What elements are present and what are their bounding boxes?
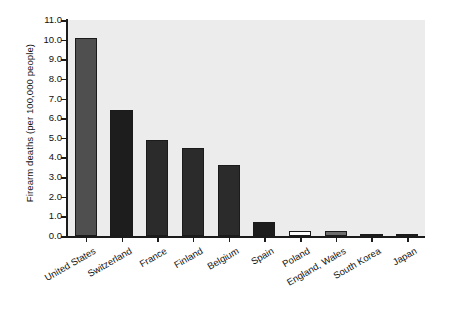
- bar: [110, 110, 132, 236]
- y-tick-mark: [61, 157, 66, 159]
- bar: [253, 222, 275, 236]
- y-tick-mark: [61, 79, 66, 81]
- y-tick-mark: [61, 40, 66, 42]
- bar: [75, 38, 97, 236]
- x-tick-mark: [264, 238, 266, 242]
- x-tick-mark: [336, 238, 338, 242]
- x-tick-mark: [407, 238, 409, 242]
- y-axis-spine: [66, 19, 68, 238]
- bar: [289, 231, 311, 236]
- bar: [325, 231, 347, 236]
- bar: [218, 165, 240, 236]
- x-tick-mark: [193, 238, 195, 242]
- bar: [396, 234, 418, 237]
- y-axis-tick-labels: 0.01.02.03.04.05.06.07.08.09.010.011.0: [26, 20, 62, 236]
- x-tick-mark: [122, 238, 124, 242]
- y-tick-mark: [61, 99, 66, 101]
- y-tick-mark: [61, 177, 66, 179]
- chart-figure: Firearm deaths (per 100,000 people) 0.01…: [0, 0, 469, 314]
- y-tick-mark: [61, 59, 66, 61]
- y-tick-label: 10.0: [44, 35, 63, 45]
- y-tick-mark: [61, 197, 66, 199]
- bar: [182, 148, 204, 236]
- y-tick-mark: [61, 236, 66, 238]
- x-tick-mark: [371, 238, 373, 242]
- y-tick-label: 11.0: [44, 15, 62, 25]
- bar: [360, 234, 382, 237]
- x-tick-mark: [86, 238, 88, 242]
- y-tick-mark: [61, 118, 66, 120]
- x-tick-mark: [229, 238, 231, 242]
- x-tick-mark: [300, 238, 302, 242]
- y-tick-mark: [61, 216, 66, 218]
- x-tick-mark: [157, 238, 159, 242]
- y-tick-mark: [61, 138, 66, 140]
- y-tick-mark: [61, 20, 66, 22]
- bar: [146, 140, 168, 236]
